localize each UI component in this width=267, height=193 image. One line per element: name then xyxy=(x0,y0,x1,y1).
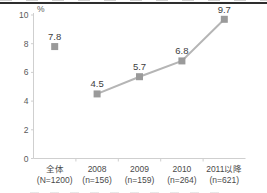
y-tick-label: 6 xyxy=(24,67,29,77)
chart-page: 0246810%7.84.55.76.89.7全体(N=1200)2008(n=… xyxy=(0,0,267,193)
cropped-text-remnant-bottom xyxy=(30,192,230,193)
x-category-label: 全体 xyxy=(46,164,64,174)
x-category-sublabel: (n=621) xyxy=(210,175,240,185)
data-point-marker xyxy=(178,57,185,64)
x-category-sublabel: (N=1200) xyxy=(37,175,73,185)
x-category-sublabel: (n=264) xyxy=(167,175,197,185)
data-point-marker xyxy=(51,43,58,50)
data-point-marker xyxy=(221,16,228,23)
y-tick-label: 4 xyxy=(24,96,29,106)
x-category-label: 2009 xyxy=(130,164,149,174)
data-point-marker xyxy=(136,73,143,80)
trend-line xyxy=(97,19,224,94)
x-category-label: 2011以降 xyxy=(206,164,242,174)
data-point-label: 6.8 xyxy=(175,45,188,56)
y-tick-label: 10 xyxy=(19,10,29,20)
data-point-label: 9.7 xyxy=(218,4,231,15)
data-point-label: 4.5 xyxy=(90,78,103,89)
y-tick-label: 0 xyxy=(24,154,29,164)
line-chart-svg: 0246810%7.84.55.76.89.7全体(N=1200)2008(n=… xyxy=(0,0,267,193)
y-tick-label: 2 xyxy=(24,125,29,135)
x-category-label: 2010 xyxy=(172,164,191,174)
x-category-sublabel: (n=159) xyxy=(125,175,155,185)
x-category-label: 2008 xyxy=(88,164,107,174)
data-point-label: 7.8 xyxy=(48,31,61,42)
data-point-marker xyxy=(94,90,101,97)
x-category-sublabel: (n=156) xyxy=(82,175,112,185)
data-point-label: 5.7 xyxy=(133,61,146,72)
unit-label: % xyxy=(37,4,45,14)
y-tick-label: 8 xyxy=(24,39,29,49)
